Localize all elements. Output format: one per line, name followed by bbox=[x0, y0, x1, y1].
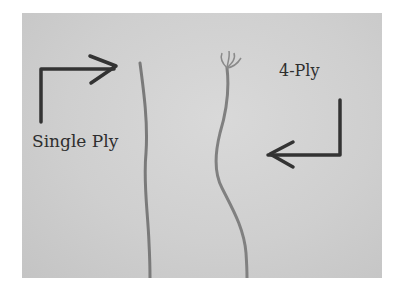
four-ply-strand bbox=[216, 68, 247, 278]
single-ply-strand bbox=[140, 63, 150, 278]
frayed-end bbox=[221, 51, 241, 68]
yarn-photo: Single Ply 4-Ply bbox=[22, 13, 382, 278]
four-ply-label: 4-Ply bbox=[279, 61, 320, 80]
arrow-pointing-to-four-ply bbox=[268, 100, 340, 167]
single-ply-label: Single Ply bbox=[32, 131, 118, 151]
arrow-pointing-to-single-ply bbox=[41, 56, 116, 122]
